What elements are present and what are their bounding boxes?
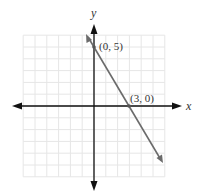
point-y-intercept xyxy=(92,45,96,49)
y-intercept-label: (0, 5) xyxy=(99,40,123,53)
y-axis-label: y xyxy=(90,6,97,20)
x-axis xyxy=(12,103,182,110)
x-axis-right-arrow-icon xyxy=(172,103,182,110)
point-x-intercept xyxy=(127,104,131,108)
x-axis-label: x xyxy=(185,99,192,113)
line-arrow-end-icon xyxy=(157,155,164,164)
y-axis-down-arrow-icon xyxy=(91,181,98,191)
y-axis-up-arrow-icon xyxy=(91,24,98,34)
x-axis-left-arrow-icon xyxy=(12,103,22,110)
y-axis xyxy=(91,24,98,191)
coordinate-plane: x y (0, 5) (3, 0) xyxy=(0,0,199,196)
x-intercept-label: (3, 0) xyxy=(130,92,154,105)
